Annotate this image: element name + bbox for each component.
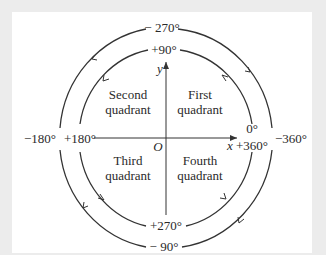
outer-top-label: − 270°: [144, 20, 179, 35]
quadrant-third-line1: Third: [114, 153, 143, 168]
quadrant-second-line2: quadrant: [105, 102, 151, 117]
arrow-icon: [103, 75, 109, 81]
arrow-icon: [220, 193, 226, 199]
inner-top-label: +90°: [151, 42, 177, 57]
inner-right-bottom-label: +360°: [236, 138, 268, 153]
arrow-icon: [92, 55, 97, 60]
inner-right-top-label: 0°: [246, 121, 258, 136]
quadrant-fourth-line1: Fourth: [183, 153, 218, 168]
arrow-icon: [222, 75, 228, 81]
origin-label: O: [153, 139, 163, 154]
quadrant-fourth: Fourth quadrant: [177, 153, 223, 183]
quadrant-diagram: − 270° −180° −360° − 90° +90° +180° 0° +…: [0, 0, 326, 255]
inner-bottom-label: +270°: [150, 218, 182, 233]
arrow-icon: [83, 202, 88, 208]
outer-left-label: −180°: [24, 131, 56, 146]
inner-left-label: +180°: [64, 131, 96, 146]
outer-right-label: −360°: [275, 131, 307, 146]
quadrant-fourth-line2: quadrant: [177, 168, 223, 183]
quadrant-first-line2: quadrant: [177, 102, 223, 117]
y-axis-label: y: [155, 61, 163, 76]
axes: [94, 62, 237, 215]
quadrant-second: Second quadrant: [105, 87, 151, 117]
quadrant-third: Third quadrant: [105, 153, 151, 183]
quadrant-first-line1: First: [188, 87, 212, 102]
quadrant-second-line1: Second: [109, 87, 148, 102]
x-axis-label: x: [226, 138, 233, 153]
outer-bottom-label: − 90°: [150, 239, 179, 254]
quadrant-first: First quadrant: [177, 87, 223, 117]
quadrant-third-line2: quadrant: [105, 168, 151, 183]
